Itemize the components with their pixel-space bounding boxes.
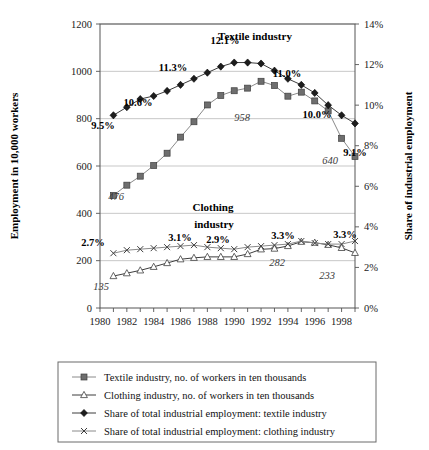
x-tick-label: 1980: [90, 316, 111, 327]
x-tick-label: 1994: [277, 316, 299, 327]
x-tick-label: 1982: [116, 316, 137, 327]
y-tick-label-left: 400: [76, 208, 92, 219]
y-tick-label-left: 200: [76, 255, 92, 266]
right-axis-title: Share of industrial employment: [402, 91, 414, 240]
employment-share-line-chart: 1980198219841986198819901992199419961998…: [0, 0, 429, 450]
y-tick-label-right: 14%: [364, 19, 384, 30]
percent-annotation: 3.1%: [168, 232, 192, 243]
data-point: [298, 81, 305, 88]
data-point: [298, 89, 304, 95]
y-tick-label-right: 4%: [364, 221, 378, 232]
percent-annotation: 9.5%: [91, 120, 115, 131]
data-point: [164, 150, 170, 156]
legend-item-2[interactable]: Clothing industry, no. of workers in ten…: [72, 390, 314, 401]
x-tick-label: 1996: [304, 316, 325, 327]
legend-marker-square: [81, 374, 87, 380]
data-point: [339, 135, 345, 141]
series-annotation: industry: [194, 218, 234, 230]
data-point: [164, 87, 171, 94]
data-point: [204, 102, 210, 108]
x-tick-label: 1984: [143, 316, 165, 327]
data-point: [231, 59, 238, 66]
percent-annotation: 10.0%: [303, 109, 332, 120]
percent-annotation: 11.3%: [159, 62, 187, 73]
data-point: [258, 78, 264, 84]
x-tick-label: 1990: [224, 316, 245, 327]
y-tick-label-right: 10%: [364, 100, 384, 111]
percent-annotation: 2.7%: [81, 237, 105, 248]
data-point: [178, 134, 184, 140]
data-series: [110, 59, 358, 279]
legend-label: Share of total industrial employment: te…: [104, 408, 328, 419]
value-annotation: 476: [108, 191, 125, 202]
data-point: [217, 63, 224, 70]
percent-annotation: 3.3%: [271, 230, 295, 241]
data-point: [258, 60, 265, 67]
y-tick-label-right: 12%: [364, 59, 384, 70]
legend-item-1[interactable]: Textile industry, no. of workers in ten …: [72, 372, 306, 383]
chart-legend[interactable]: Textile industry, no. of workers in ten …: [58, 362, 376, 442]
y-tick-label-right: 6%: [364, 181, 378, 192]
percent-annotation: 3.3%: [333, 229, 357, 240]
data-point: [124, 182, 130, 188]
value-annotation: 958: [234, 112, 251, 123]
legend-label: Clothing industry, no. of workers in ten…: [104, 390, 314, 401]
data-point: [244, 59, 251, 66]
data-point: [312, 98, 318, 104]
data-point: [271, 83, 277, 89]
data-point: [218, 92, 224, 98]
left-axis-title: Employment in 10,000 workers: [8, 92, 20, 239]
data-point: [191, 119, 197, 125]
series-annotation: Clothing: [193, 201, 234, 213]
chart-figure: 1980198219841986198819901992199419961998…: [0, 0, 429, 450]
data-point: [204, 69, 211, 76]
series-annotation: Textile industry: [218, 30, 292, 42]
legend-label: Textile industry, no. of workers in ten …: [104, 372, 306, 383]
data-point: [110, 112, 117, 119]
x-tick-label: 1998: [331, 316, 352, 327]
data-point: [231, 88, 237, 94]
percent-annotation: 2.9%: [206, 234, 230, 245]
data-point: [245, 85, 251, 91]
value-annotation: 282: [269, 257, 286, 268]
data-point: [137, 173, 143, 179]
legend-item-4[interactable]: Share of total industrial employment: cl…: [72, 426, 336, 437]
y-tick-label-left: 600: [76, 161, 92, 172]
value-annotation: 640: [322, 155, 339, 166]
x-tick-label: 1992: [251, 316, 272, 327]
y-tick-label-right: 2%: [364, 262, 378, 273]
data-point: [285, 93, 291, 99]
data-point: [151, 163, 157, 169]
value-annotation: 233: [319, 270, 335, 281]
axis-ticks: [96, 24, 359, 312]
y-tick-label-left: 1000: [71, 66, 92, 77]
x-tick-label: 1986: [170, 316, 191, 327]
legend-label: Share of total industrial employment: cl…: [104, 426, 336, 437]
data-point: [177, 81, 184, 88]
value-annotation: 135: [93, 281, 109, 292]
y-tick-label-right: 0%: [364, 303, 378, 314]
y-tick-label-left: 1200: [71, 19, 92, 30]
data-point: [191, 75, 198, 82]
percent-annotation: 10.6%: [124, 97, 153, 108]
y-tick-label-left: 800: [76, 113, 92, 124]
percent-annotation: 11.0%: [273, 68, 301, 79]
y-tick-label-left: 0: [87, 303, 92, 314]
x-tick-label: 1988: [197, 316, 218, 327]
legend-item-3[interactable]: Share of total industrial employment: te…: [72, 408, 328, 419]
data-point: [352, 120, 359, 127]
data-point: [338, 112, 345, 119]
percent-annotation: 9.1%: [343, 147, 367, 158]
